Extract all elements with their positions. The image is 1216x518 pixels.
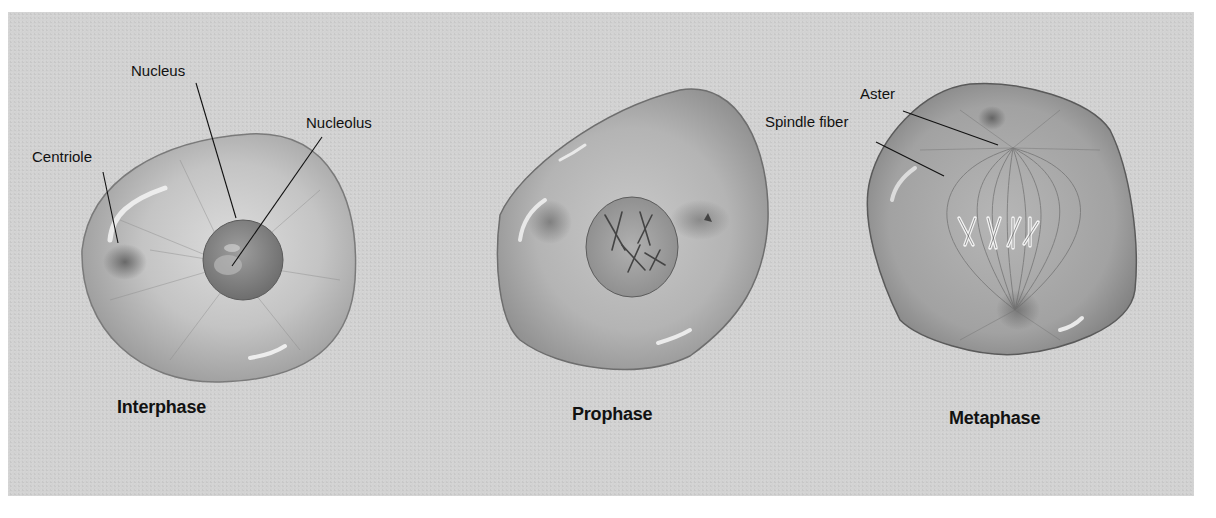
label-nucleus: Nucleus bbox=[131, 63, 185, 78]
phase-title-prophase: Prophase bbox=[572, 405, 652, 423]
metaphase-cell bbox=[867, 83, 1136, 354]
phase-title-interphase: Interphase bbox=[117, 398, 206, 416]
label-nucleolus: Nucleolus bbox=[306, 115, 372, 130]
label-centriole: Centriole bbox=[32, 149, 92, 164]
label-aster: Aster bbox=[860, 86, 895, 101]
interphase-cell bbox=[82, 134, 356, 382]
phase-title-metaphase: Metaphase bbox=[949, 409, 1040, 427]
prophase-cell bbox=[497, 89, 768, 369]
label-spindle-fiber: Spindle fiber bbox=[765, 114, 848, 129]
